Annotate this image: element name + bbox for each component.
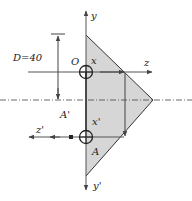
z-prime-label: z'	[35, 124, 44, 135]
a-prime-label: A'	[59, 109, 70, 120]
dimension-label: D=40	[12, 52, 43, 63]
y-prime-label: y'	[92, 180, 101, 191]
point-a-label: A	[91, 146, 99, 157]
x-axis-label: x	[91, 55, 97, 66]
diagram-canvas: y D=40 O x z A' x' z' A y'	[0, 0, 192, 201]
origin-label: O	[71, 56, 79, 67]
z-axis-label: z	[143, 57, 150, 68]
x-prime-label: x'	[92, 116, 100, 127]
z-prime-dot	[69, 135, 73, 139]
y-axis-label: y	[90, 10, 97, 21]
